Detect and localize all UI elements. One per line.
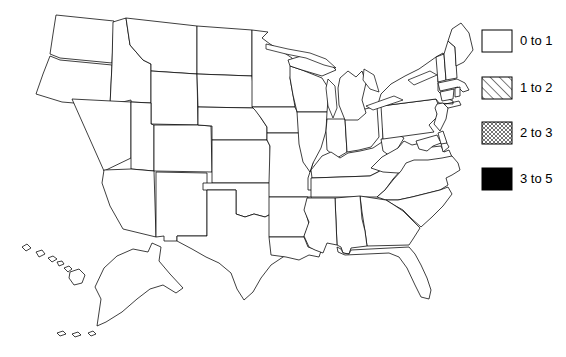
legend-label-0: 0 to 1 [520, 33, 553, 48]
state-in [326, 119, 347, 158]
states-layer [22, 15, 473, 337]
lake-michigan-shape [326, 79, 337, 118]
state-ks [212, 140, 271, 183]
us-choropleth-figure: 0 to 1 1 to 2 2 to 3 3 to 5 [0, 0, 566, 357]
state-ut [131, 102, 154, 171]
legend-swatch-2 [482, 122, 512, 144]
legend-label-1: 1 to 2 [520, 80, 553, 95]
legend-swatch-0 [482, 30, 512, 52]
state-ar [269, 197, 309, 237]
state-hi [22, 244, 85, 285]
state-nj [434, 103, 448, 131]
legend-swatch-1 [482, 77, 512, 99]
lake-huron-shape [363, 69, 379, 92]
state-co [154, 125, 212, 172]
state-fl [337, 247, 431, 299]
legend-label-2: 2 to 3 [520, 125, 553, 140]
state-or [36, 56, 112, 106]
legend-label-3: 3 to 5 [520, 171, 553, 186]
state-mn [252, 30, 295, 107]
legend-swatch-3 [482, 168, 512, 190]
state-ri [455, 87, 460, 97]
state-az [102, 169, 156, 237]
map-legend: 0 to 1 1 to 2 2 to 3 3 to 5 [482, 30, 553, 190]
state-nd [197, 26, 252, 76]
state-ms [304, 198, 337, 253]
state-nm [156, 172, 207, 241]
state-wa [50, 15, 114, 63]
us-map-svg: 0 to 1 1 to 2 2 to 3 3 to 5 [0, 0, 566, 357]
state-sd [197, 74, 255, 108]
state-ak [57, 243, 183, 337]
state-nv [72, 99, 131, 171]
state-wy [151, 71, 198, 125]
